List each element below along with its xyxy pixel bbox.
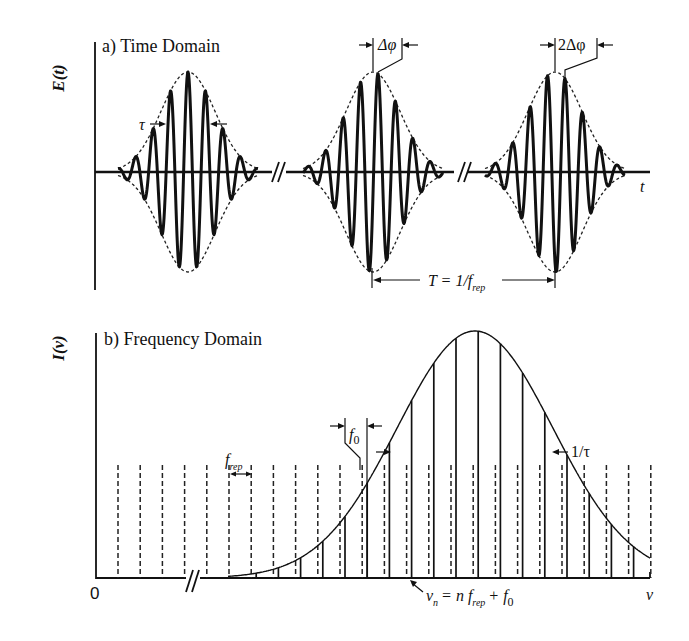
tau-label: τ	[139, 116, 146, 133]
frequency-domain-panel: I(ν) b) Frequency Domain 0 ν frep f0	[49, 329, 654, 609]
frequency-comb-diagram: E(t) a) Time Domain t τ Δφ	[0, 0, 689, 641]
phase-shift-annotation: Δφ	[359, 36, 418, 72]
pulse-envelope	[485, 72, 625, 169]
frequency-domain-y-label: I(ν)	[49, 335, 68, 361]
pulse-carrier-1	[118, 72, 258, 267]
double-phase-shift-annotation: 2Δφ	[540, 36, 613, 85]
time-domain-title: a) Time Domain	[102, 36, 220, 57]
freq-axis-break-icon	[186, 570, 200, 592]
time-domain-panel: E(t) a) Time Domain t τ Δφ	[49, 36, 650, 293]
pulse-carrier-3	[485, 76, 625, 272]
period-label: T = 1/frep	[428, 272, 485, 293]
f0-label: f0	[349, 426, 359, 447]
period-annotation: T = 1/frep	[372, 268, 555, 293]
offset-frequency-annotation: f0	[330, 418, 382, 578]
origin-label: 0	[90, 584, 99, 603]
mode-equation: νn= n frep+ f0	[426, 587, 514, 609]
time-x-label: t	[640, 178, 645, 195]
pulse-envelope	[118, 176, 258, 273]
frep-label: frep	[225, 451, 242, 472]
frequency-domain-title: b) Frequency Domain	[104, 329, 262, 350]
time-domain-y-label: E(t)	[49, 64, 68, 92]
bandwidth-label: 1/τ	[571, 443, 590, 460]
two-delta-phi-label: 2Δφ	[558, 36, 586, 54]
delta-phi-label: Δφ	[377, 36, 396, 54]
freq-x-label: ν	[646, 586, 654, 603]
rep-rate-annotation: frep	[225, 451, 252, 477]
mode-equation-annotation: νn= n frep+ f0	[410, 580, 514, 609]
bandwidth-annotation: 1/τ	[376, 443, 590, 460]
